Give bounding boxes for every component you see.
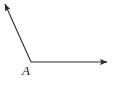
vertex-label-a: A xyxy=(22,64,30,77)
upper-left-ray xyxy=(5,4,31,62)
angle-diagram-svg xyxy=(0,0,113,87)
angle-figure: A xyxy=(0,0,113,87)
